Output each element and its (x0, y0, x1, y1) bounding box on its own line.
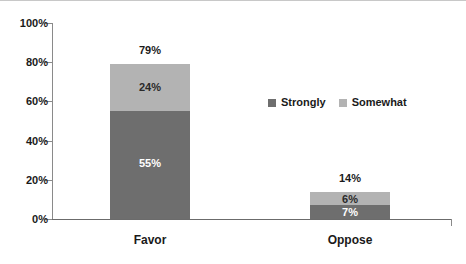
legend-swatch-icon-somewhat (339, 99, 347, 107)
legend-label-strongly: Strongly (281, 97, 326, 108)
bar-favor-total-value: 79% (110, 44, 190, 56)
legend-item-somewhat[interactable]: Somewhat (339, 97, 407, 108)
bar-favor-strongly-value: 55% (110, 157, 190, 169)
chart-canvas: 100% 80% 60% 40% 20% 0% 24% 55% 79% 6% 7… (0, 0, 466, 264)
y-axis-label-20: 20% (4, 175, 48, 185)
bar-favor-segment-somewhat[interactable]: 24% (110, 64, 190, 111)
bar-oppose-segment-somewhat[interactable]: 6% (310, 192, 390, 206)
bar-favor-segment-strongly[interactable]: 55% (110, 111, 190, 219)
x-axis-label-favor: Favor (110, 233, 190, 247)
legend-item-strongly[interactable]: Strongly (268, 97, 326, 108)
bar-oppose[interactable]: 6% 7% 14% (310, 192, 390, 219)
y-axis-label-40: 40% (4, 136, 48, 146)
y-axis-label-60: 60% (4, 96, 48, 106)
bar-favor[interactable]: 24% 55% 79% (110, 64, 190, 219)
x-axis-line (52, 219, 452, 220)
plot-area: 24% 55% 79% 6% 7% 14% (52, 23, 452, 219)
bar-oppose-somewhat-value: 6% (310, 193, 390, 205)
y-axis-labels: 100% 80% 60% 40% 20% 0% (0, 1, 48, 264)
chart-legend: Strongly Somewhat (268, 97, 407, 108)
legend-label-somewhat: Somewhat (352, 97, 407, 108)
x-axis-end-tick (451, 219, 452, 226)
legend-swatch-icon-strongly (268, 99, 276, 107)
x-axis-label-oppose: Oppose (310, 233, 390, 247)
y-axis-label-100: 100% (4, 18, 48, 28)
bar-oppose-strongly-value: 7% (310, 206, 390, 218)
y-axis-label-0: 0% (4, 214, 48, 224)
y-axis-label-80: 80% (4, 57, 48, 67)
bar-favor-somewhat-value: 24% (110, 81, 190, 93)
bar-oppose-total-value: 14% (310, 172, 390, 184)
bar-oppose-segment-strongly[interactable]: 7% (310, 205, 390, 219)
